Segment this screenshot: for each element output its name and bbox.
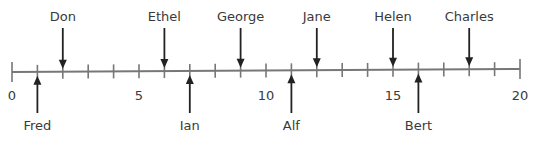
arrowhead-icon bbox=[313, 58, 321, 67]
name-label-charles: Charles bbox=[445, 9, 494, 24]
arrowhead-icon bbox=[389, 58, 397, 67]
arrowhead-icon bbox=[160, 59, 168, 68]
arrowhead-icon bbox=[237, 59, 245, 68]
arrowhead-icon bbox=[465, 57, 473, 66]
axis-number-label: 0 bbox=[8, 88, 16, 103]
name-label-george: George bbox=[217, 9, 264, 24]
name-label-ethel: Ethel bbox=[148, 9, 181, 24]
name-label-fred: Fred bbox=[23, 118, 51, 133]
name-label-alf: Alf bbox=[283, 118, 300, 133]
name-label-ian: Ian bbox=[180, 118, 200, 133]
axis-number-label: 15 bbox=[385, 88, 402, 103]
arrowhead-icon bbox=[186, 75, 194, 84]
axis-number-label: 20 bbox=[512, 88, 529, 103]
arrowhead-icon bbox=[33, 76, 41, 85]
arrowhead-icon bbox=[59, 60, 67, 69]
arrowhead-icon bbox=[414, 74, 422, 83]
name-label-helen: Helen bbox=[374, 9, 412, 24]
axis-number-label: 10 bbox=[258, 88, 275, 103]
name-label-don: Don bbox=[50, 9, 76, 24]
arrowhead-icon bbox=[287, 74, 295, 83]
name-label-jane: Jane bbox=[303, 9, 331, 24]
axis-number-label: 5 bbox=[135, 88, 143, 103]
name-label-bert: Bert bbox=[405, 118, 432, 133]
